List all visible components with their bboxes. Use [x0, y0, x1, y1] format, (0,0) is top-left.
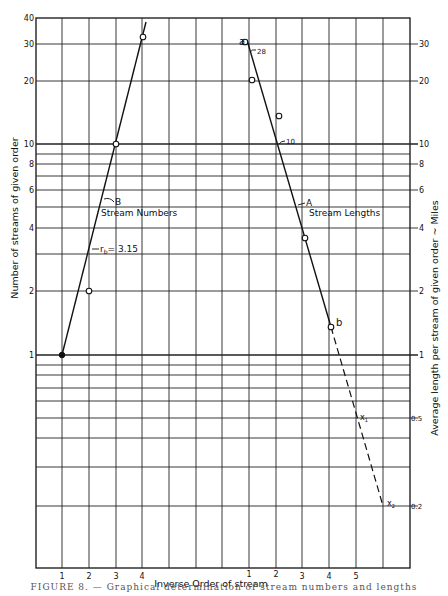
svg-text:8: 8 — [29, 160, 34, 169]
a-leader-line — [298, 203, 305, 205]
data-point — [276, 113, 282, 119]
svg-text:4: 4 — [326, 572, 331, 581]
right-y-ticks: 30 20 10 8 6 4 2 1 0.5 0.2 — [411, 40, 429, 511]
data-point — [86, 288, 92, 294]
svg-text:5: 5 — [353, 572, 358, 581]
svg-text:8: 8 — [419, 160, 424, 169]
x1-label: x1 — [360, 413, 368, 423]
svg-text:2: 2 — [419, 287, 424, 296]
svg-text:30: 30 — [419, 40, 429, 49]
b-leader-line — [104, 198, 114, 202]
rb-annotation: rb= 3.15 — [100, 244, 138, 255]
left-y-ticks: 40 30 20 10 8 6 4 2 1 — [24, 14, 34, 360]
svg-text:10: 10 — [419, 140, 429, 149]
point-a-label: a — [239, 36, 245, 47]
svg-text:0.5: 0.5 — [411, 415, 422, 423]
svg-text:6: 6 — [419, 186, 424, 195]
svg-text:2: 2 — [273, 570, 278, 579]
svg-text:10: 10 — [24, 140, 34, 149]
svg-text:20: 20 — [419, 77, 429, 86]
plot-frame — [36, 18, 410, 568]
left-y-axis-title: Number of streams of given order — [9, 137, 20, 298]
svg-text:20: 20 — [24, 77, 34, 86]
series-b-sublabel: Stream Numbers — [101, 208, 178, 218]
annotation-10: 10 — [286, 138, 295, 146]
vertical-gridlines — [62, 18, 383, 568]
svg-text:4: 4 — [419, 224, 424, 233]
data-point — [113, 141, 119, 147]
right-y-axis-title: Average length per stream of given order… — [429, 200, 440, 435]
svg-text:1: 1 — [59, 572, 64, 581]
series-a-fit-line — [247, 40, 331, 327]
svg-text:4: 4 — [139, 572, 144, 581]
svg-text:1: 1 — [419, 351, 424, 360]
series-a-label: A — [306, 198, 313, 208]
svg-text:1: 1 — [29, 351, 34, 360]
svg-text:3: 3 — [113, 572, 118, 581]
svg-text:2: 2 — [86, 572, 91, 581]
data-point-b — [328, 324, 334, 330]
svg-text:0.2: 0.2 — [411, 503, 422, 511]
svg-text:2: 2 — [29, 287, 34, 296]
series-a-sublabel: Stream Lengths — [309, 208, 380, 218]
x2-label: x2 — [387, 499, 395, 509]
svg-text:30: 30 — [24, 40, 34, 49]
data-point — [249, 77, 255, 83]
series-b-fit-line — [62, 22, 146, 355]
horizontal-gridlines — [36, 44, 418, 506]
svg-text:6: 6 — [29, 186, 34, 195]
series-b-label: B — [115, 197, 121, 207]
data-point — [302, 235, 308, 241]
svg-text:40: 40 — [24, 14, 34, 23]
annotation-28: 28 — [257, 48, 266, 56]
svg-text:4: 4 — [29, 224, 34, 233]
data-point — [140, 34, 146, 40]
log-chart: 40 30 20 10 8 6 4 2 1 30 20 10 8 6 4 2 1… — [0, 0, 448, 596]
series-a-extrapolation — [331, 327, 383, 506]
point-b-label: b — [336, 317, 342, 328]
svg-text:3: 3 — [299, 572, 304, 581]
figure-caption: FIGURE 8. — Graphical determination of s… — [0, 582, 448, 592]
x-ticks-panel-b: 1 2 3 4 — [59, 572, 144, 581]
data-point — [59, 352, 65, 358]
